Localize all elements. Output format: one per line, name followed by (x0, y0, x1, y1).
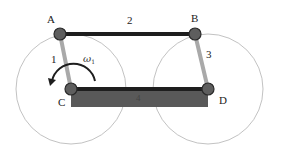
link-label-1: 1 (51, 53, 57, 65)
omega-symbol: ω (83, 53, 91, 64)
joint-label-b: B (191, 12, 198, 24)
joint-a (54, 28, 66, 40)
joint-label-a: A (47, 13, 55, 25)
joint-c (65, 83, 77, 95)
link-1-crank (60, 34, 71, 89)
joint-label-d: D (219, 94, 227, 106)
link-label-3: 3 (206, 48, 212, 60)
joint-label-c: C (58, 96, 65, 108)
link-label-4: 4 (136, 93, 141, 103)
link-3-rocker (195, 34, 208, 89)
joint-b (189, 28, 201, 40)
joint-d (202, 83, 214, 95)
four-bar-linkage-diagram: A B C D 1 2 3 4 ω1 (0, 0, 282, 159)
angular-velocity-label: ω1 (83, 53, 95, 65)
omega-subscript: 1 (91, 58, 95, 65)
link-label-2: 2 (127, 14, 133, 26)
